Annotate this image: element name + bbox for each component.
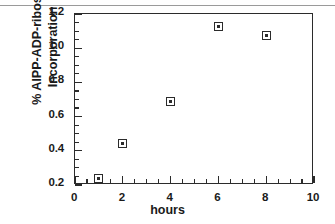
x-axis-tick-minor: [86, 179, 87, 183]
data-point-marker: [262, 31, 271, 40]
x-axis-tick-minor: [230, 179, 231, 183]
x-axis-tick-minor: [290, 179, 291, 183]
y-axis-tick-minor: [75, 107, 79, 108]
y-axis-tick-minor: [75, 22, 79, 23]
x-axis-tick-minor: [254, 179, 255, 183]
x-axis-tick-minor: [182, 179, 183, 183]
x-axis-tick-minor: [301, 179, 302, 183]
x-axis-tick-minor: [146, 179, 147, 183]
x-axis-tick-major: [170, 176, 171, 183]
y-axis-tick-label: 0.6: [0, 108, 64, 120]
data-point-marker: [214, 22, 223, 31]
x-axis-tick-major: [122, 176, 123, 183]
x-axis-tick-major: [266, 176, 267, 183]
x-axis-tick-major: [74, 176, 75, 183]
y-axis-tick-minor: [75, 159, 79, 160]
y-axis-tick-label: 0.2: [0, 176, 64, 188]
y-axis-tick-label: 0.4: [0, 142, 64, 154]
y-axis-tick-minor: [75, 56, 79, 57]
plot-frame: [74, 13, 313, 184]
y-axis-tick-minor: [75, 73, 79, 74]
y-axis-tick-minor: [75, 65, 79, 66]
x-axis-tick-label: 2: [102, 191, 142, 203]
x-axis-tick-label: 0: [54, 191, 94, 203]
x-axis-tick-minor: [158, 179, 159, 183]
x-axis-tick-minor: [206, 179, 207, 183]
y-axis-tick-minor: [75, 142, 79, 143]
scatter-chart-figure: % AlPP-ADP-ribose Incorporation hours 0.…: [0, 0, 335, 224]
y-axis-tick-label: 1.2: [0, 5, 64, 17]
x-axis-tick-minor: [278, 179, 279, 183]
x-axis-tick-minor: [194, 179, 195, 183]
y-axis-tick-minor: [75, 31, 79, 32]
y-axis-tick-minor: [75, 99, 79, 100]
x-axis-tick-major: [218, 176, 219, 183]
y-axis-tick-label: 1.0: [0, 39, 64, 51]
data-point-marker: [166, 97, 175, 106]
x-axis-title: hours: [0, 203, 335, 217]
x-axis-tick-label: 8: [245, 191, 285, 203]
y-axis-tick-major: [75, 150, 82, 151]
x-axis-tick-major: [313, 176, 314, 183]
data-point-marker: [94, 174, 103, 183]
plot-area: [75, 14, 312, 183]
y-axis-tick-minor: [75, 167, 79, 168]
y-axis-tick-major: [75, 82, 82, 83]
y-axis-tick-major: [75, 184, 82, 185]
y-axis-tick-major: [75, 116, 82, 117]
y-axis-tick-major: [75, 13, 82, 14]
x-axis-tick-label: 6: [197, 191, 237, 203]
x-axis-tick-minor: [242, 179, 243, 183]
x-axis-tick-minor: [134, 179, 135, 183]
y-axis-tick-minor: [75, 125, 79, 126]
y-axis-tick-minor: [75, 133, 79, 134]
x-axis-tick-minor: [110, 179, 111, 183]
y-axis-tick-minor: [75, 90, 79, 91]
y-axis-tick-label: 0.8: [0, 73, 64, 85]
x-axis-tick-label: 10: [293, 191, 333, 203]
y-axis-tick-major: [75, 48, 82, 49]
data-point-marker: [118, 139, 127, 148]
y-axis-tick-minor: [75, 39, 79, 40]
x-axis-tick-label: 4: [150, 191, 190, 203]
